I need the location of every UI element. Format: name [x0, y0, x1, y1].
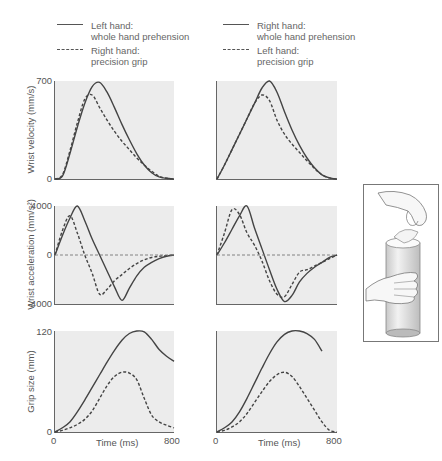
chart-right-acceleration — [216, 206, 337, 305]
plot-area — [217, 206, 337, 304]
tick-velocity-min: 0 — [20, 173, 52, 184]
legend-item-solid: Left hand: whole hand prehension — [57, 20, 207, 42]
series-solid-line — [55, 331, 174, 432]
tick-time-min-left: 0 — [51, 435, 56, 446]
dashed-line-swatch — [223, 49, 249, 50]
tick-time-min-right: 0 — [213, 435, 218, 446]
series-dashed-line — [217, 95, 337, 179]
y-axis-label-grip: Grip size (mm) — [25, 322, 36, 442]
legend-item-solid: Right hand: whole hand prehension — [223, 20, 373, 42]
series-dashed-line — [217, 372, 337, 432]
plot-area — [55, 206, 174, 304]
tick-accel-max: 4000 — [20, 200, 52, 211]
tick-accel-min: -4000 — [20, 298, 52, 309]
chart-left-velocity — [54, 81, 174, 180]
y-axis-label-velocity: Wrist velocity (mm/s) — [25, 70, 36, 190]
legend-label: precision grip — [91, 56, 207, 67]
solid-line-swatch — [57, 24, 83, 25]
legend-right: Right hand: whole hand prehension Left h… — [223, 20, 373, 70]
legend-label: Right hand: — [257, 20, 373, 31]
x-axis-label-right: Time (ms) — [258, 437, 300, 448]
tick-time-max-right: 800 — [326, 435, 342, 446]
series-solid-line — [217, 81, 337, 179]
legend-item-dashed: Right hand: precision grip — [57, 45, 207, 67]
tick-velocity-max: 700 — [20, 75, 52, 86]
hands-cylinder-icon — [364, 185, 438, 341]
series-dashed-line — [55, 372, 174, 432]
legend-label: Right hand: — [91, 45, 207, 56]
tick-grip-min: 0 — [20, 426, 52, 437]
plot-area — [217, 331, 337, 432]
plot-area — [55, 81, 174, 179]
chart-right-velocity — [216, 81, 337, 180]
x-axis-label-left: Time (ms) — [96, 437, 138, 448]
legend-left: Left hand: whole hand prehension Right h… — [57, 20, 207, 70]
legend-label: Left hand: — [91, 20, 207, 31]
series-dashed-line — [217, 209, 337, 298]
legend-label: precision grip — [257, 56, 373, 67]
plot-area — [217, 81, 337, 179]
tick-time-max-left: 800 — [164, 435, 180, 446]
inset-illustration — [363, 184, 439, 342]
legend-item-dashed: Left hand: precision grip — [223, 45, 373, 67]
series-solid-line — [55, 206, 174, 300]
legend-label: whole hand prehension — [257, 31, 373, 42]
legend-label: whole hand prehension — [91, 31, 207, 42]
legend-label: Left hand: — [257, 45, 373, 56]
series-solid-line — [217, 206, 337, 302]
chart-left-acceleration — [54, 206, 174, 305]
dashed-line-swatch — [57, 49, 83, 50]
chart-right-grip — [216, 331, 337, 433]
chart-left-grip — [54, 331, 174, 433]
series-solid-line — [55, 82, 174, 179]
solid-line-swatch — [223, 24, 249, 25]
plot-area — [55, 331, 174, 432]
tick-accel-zero: 0 — [20, 249, 52, 260]
tick-grip-max: 120 — [20, 326, 52, 337]
